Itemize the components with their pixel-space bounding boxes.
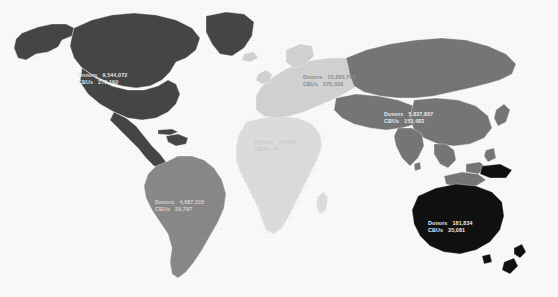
world-map-svg: [0, 0, 558, 297]
world-map: Donors 9,544,072 CBUs 275,160 Donors 4,6…: [0, 0, 558, 297]
region-shape-tasmania: [482, 254, 492, 264]
